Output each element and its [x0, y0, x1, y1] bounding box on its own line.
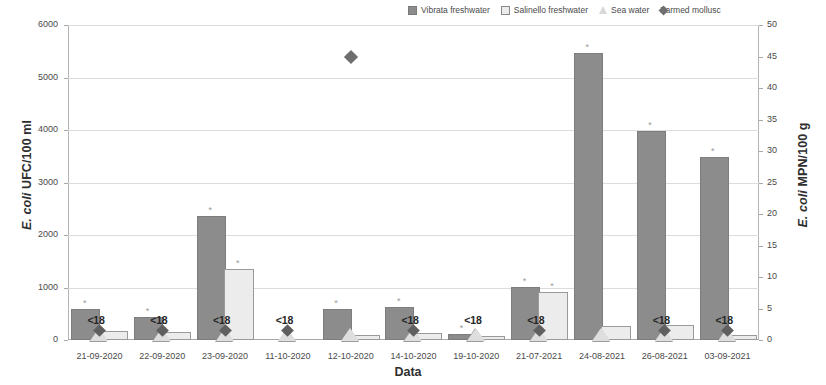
y-axis-right-tick-label: 0: [767, 335, 797, 344]
y-axis-right-title-italic: E. coli: [796, 190, 810, 228]
y-axis-right-tickmark: [759, 277, 763, 278]
legend-label: Farmed mollusc: [660, 6, 720, 15]
x-axis-tick-label: 26-08-2021: [633, 352, 696, 361]
x-axis-tick-label: 14-10-2020: [382, 352, 445, 361]
x-axis-title: Data: [0, 365, 826, 379]
triangle-icon: [599, 6, 607, 14]
chart-group-21-09-2020[interactable]: *<18: [68, 25, 131, 340]
y-axis-right-tick-label: 40: [767, 83, 797, 92]
significance-marker: *: [711, 147, 715, 156]
y-axis-right-tick-label: 5: [767, 304, 797, 313]
y-axis-left-tick-label: 2000: [14, 230, 58, 239]
y-axis-right-tickmark: [759, 88, 763, 89]
x-axis-tick-label: 21-09-2020: [68, 352, 131, 361]
y-axis-right-tick-label: 15: [767, 241, 797, 250]
y-axis-right-title-rest: MPN/100 g: [796, 122, 810, 190]
y-axis-left-tick-label: 5000: [14, 73, 58, 82]
x-axis-tick-label: 11-10-2020: [256, 352, 319, 361]
marker-farmed-mollusc[interactable]: [344, 49, 358, 63]
below-detection-label: <18: [213, 314, 230, 326]
y-axis-left-tick-label: 0: [14, 335, 58, 344]
below-detection-label: <18: [150, 314, 167, 326]
x-axis-tick-label: 03-09-2021: [696, 352, 759, 361]
significance-marker: *: [550, 282, 554, 291]
x-axis-tick-label: 19-10-2020: [445, 352, 508, 361]
legend-item-farmed-mollusc[interactable]: Farmed mollusc: [660, 6, 720, 15]
significance-marker: *: [334, 299, 338, 308]
marker-sea-water-fill: [341, 328, 359, 341]
y-axis-left-tick-label: 6000: [14, 20, 58, 29]
significance-marker: *: [523, 277, 527, 286]
open-square-icon: [501, 6, 510, 15]
bar-vibrata-freshwater[interactable]: [700, 157, 729, 340]
significance-marker: *: [397, 297, 401, 306]
significance-marker: *: [146, 307, 150, 316]
legend-item-salinello-freshwater[interactable]: Salinello freshwater: [501, 6, 588, 15]
below-detection-label: <18: [527, 314, 544, 326]
chart-group-12-10-2020[interactable]: *: [319, 25, 382, 340]
chart-group-11-10-2020[interactable]: <18: [256, 25, 319, 340]
chart-group-03-09-2021[interactable]: *<18: [696, 25, 759, 340]
below-detection-label: <18: [401, 314, 418, 326]
chart-group-26-08-2021[interactable]: *<18: [633, 25, 696, 340]
below-detection-label: <18: [653, 314, 670, 326]
y-axis-right-tickmark: [759, 57, 763, 58]
plot-area: 0100020003000400050006000051015202530354…: [68, 25, 759, 340]
y-axis-right-tick-label: 30: [767, 146, 797, 155]
y-axis-right-tickmark: [759, 214, 763, 215]
chart-group-22-09-2020[interactable]: *<18: [131, 25, 194, 340]
y-axis-left-title-italic: E. coli: [20, 193, 34, 231]
significance-marker: *: [236, 259, 240, 268]
significance-marker: *: [648, 121, 652, 130]
y-axis-left-tickmark: [64, 340, 68, 341]
y-axis-right-tick-label: 20: [767, 209, 797, 218]
y-axis-right-tick-label: 10: [767, 272, 797, 281]
x-axis-tick-label: 21-07-2021: [508, 352, 571, 361]
legend-item-vibrata-freshwater[interactable]: Vibrata freshwater: [408, 6, 490, 15]
below-detection-label: <18: [87, 314, 104, 326]
y-axis-right-tickmark: [759, 246, 763, 247]
y-axis-right-tick-label: 45: [767, 52, 797, 61]
chart-group-21-07-2021[interactable]: **<18: [508, 25, 571, 340]
x-axis-tick-label: 24-08-2021: [571, 352, 634, 361]
y-axis-left-tick-label: 4000: [14, 125, 58, 134]
y-axis-right-tickmark: [759, 151, 763, 152]
bar-vibrata-freshwater[interactable]: [574, 53, 603, 340]
legend-item-sea-water[interactable]: Sea water: [599, 6, 649, 15]
marker-sea-water-fill: [467, 328, 485, 341]
chart-legend: Vibrata freshwater Salinello freshwater …: [408, 2, 808, 18]
below-detection-label: <18: [464, 314, 481, 326]
x-axis-tick-label: 23-09-2020: [194, 352, 257, 361]
legend-label: Sea water: [611, 6, 649, 15]
legend-label: Salinello freshwater: [514, 6, 588, 15]
y-axis-left-tick-label: 3000: [14, 178, 58, 187]
x-axis-title-label: Data: [394, 365, 421, 379]
y-axis-right-tick-label: 25: [767, 178, 797, 187]
y-axis-right-tickmark: [759, 25, 763, 26]
y-axis-right-tickmark: [759, 340, 763, 341]
y-axis-right-tickmark: [759, 120, 763, 121]
y-axis-right-title: E. coli MPN/100 g: [796, 95, 810, 255]
significance-marker: *: [460, 324, 464, 333]
below-detection-label: <18: [716, 314, 733, 326]
y-axis-right-tickmark: [759, 183, 763, 184]
chart-root: Vibrata freshwater Salinello freshwater …: [0, 0, 826, 385]
x-axis-tick-label: 22-09-2020: [131, 352, 194, 361]
y-axis-right-tickmark: [759, 309, 763, 310]
filled-square-icon: [408, 6, 417, 15]
chart-group-24-08-2021[interactable]: *: [571, 25, 634, 340]
significance-marker: *: [209, 206, 213, 215]
chart-group-19-10-2020[interactable]: *<18: [445, 25, 508, 340]
marker-sea-water-fill: [592, 328, 610, 341]
bar-vibrata-freshwater[interactable]: [637, 131, 666, 340]
legend-label: Vibrata freshwater: [421, 6, 490, 15]
significance-marker: *: [585, 43, 589, 52]
y-axis-right-tick-label: 50: [767, 20, 797, 29]
significance-marker: *: [83, 299, 87, 308]
below-detection-label: <18: [276, 314, 293, 326]
chart-group-23-09-2020[interactable]: **<18: [194, 25, 257, 340]
y-axis-right-tick-label: 35: [767, 115, 797, 124]
y-axis-left-tick-label: 1000: [14, 283, 58, 292]
chart-group-14-10-2020[interactable]: *<18: [382, 25, 445, 340]
x-axis-tick-label: 12-10-2020: [319, 352, 382, 361]
